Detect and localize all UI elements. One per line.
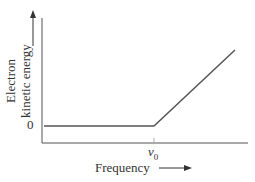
y-tick-zero: 0	[27, 117, 34, 133]
ylabel-line1: Electron	[3, 21, 18, 141]
nu-subscript: 0	[154, 152, 159, 162]
x-axis-label: Frequency	[95, 160, 150, 176]
chart-canvas	[0, 0, 255, 182]
data-line	[44, 50, 235, 126]
x-tick-nu0: ν0	[148, 144, 158, 162]
